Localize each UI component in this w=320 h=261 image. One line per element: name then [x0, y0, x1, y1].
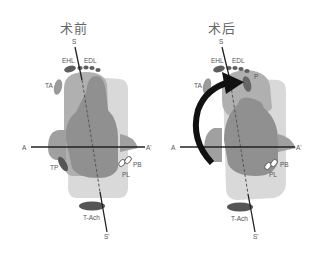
label-edl: EDL: [232, 57, 245, 64]
postop-panel: 术后 S S': [160, 0, 320, 261]
label-s: S: [72, 38, 77, 45]
label-s-prime: S': [104, 233, 110, 240]
label-ta: TA: [45, 82, 53, 89]
s-axis-bottom: [248, 194, 255, 232]
label-a-prime: A': [296, 144, 302, 151]
label-ehl: EHL: [211, 57, 224, 64]
ta-tendon: [52, 78, 63, 95]
tach-tendon: [227, 203, 253, 212]
label-p: P: [254, 73, 258, 80]
label-pb: PB: [133, 161, 142, 168]
label-pl: PL: [122, 171, 130, 178]
label-ta: TA: [194, 82, 202, 89]
label-tp: TP: [50, 164, 58, 171]
label-edl: EDL: [84, 57, 97, 64]
label-tach: T-Ach: [83, 214, 100, 221]
label-a-prime: A': [146, 144, 152, 151]
label-a: A: [171, 144, 176, 151]
label-a: A: [22, 144, 27, 151]
preop-panel: 术前 S S' A A' EHL EDL: [0, 0, 160, 261]
ehl-tendon: [63, 64, 76, 73]
label-ehl: EHL: [62, 57, 75, 64]
postop-diagram: S S' A A' EHL EDL TA P PB PL T-Ach: [160, 0, 320, 261]
label-pb: PB: [280, 161, 289, 168]
label-tach: T-Ach: [231, 215, 248, 222]
preop-diagram: S S' A A' EHL EDL TA TP PB PL T-Ach: [0, 0, 160, 261]
edl-tendons: [77, 66, 100, 73]
ehl-tendon: [212, 64, 225, 73]
label-pl: PL: [269, 171, 277, 178]
tach-tendon: [79, 202, 105, 211]
label-s: S: [219, 38, 224, 45]
label-s-prime: S': [253, 233, 259, 240]
